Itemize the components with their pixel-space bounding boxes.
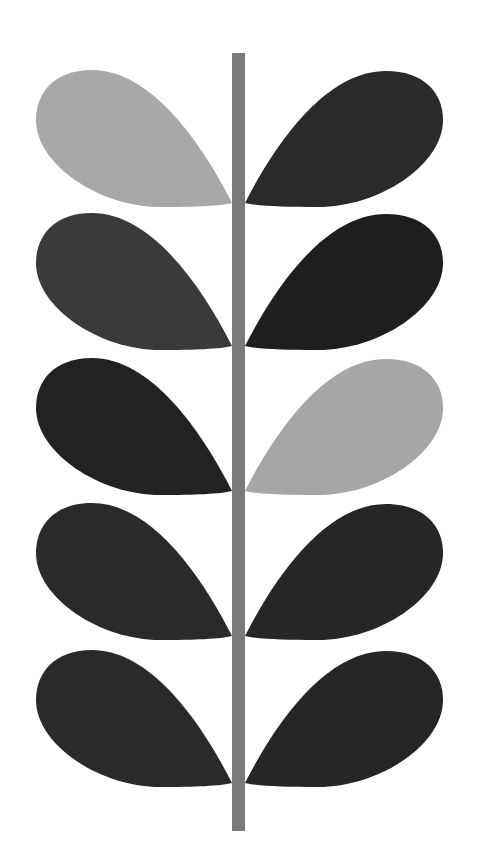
stem-leaf-graphic (0, 0, 483, 859)
stem (232, 53, 245, 831)
